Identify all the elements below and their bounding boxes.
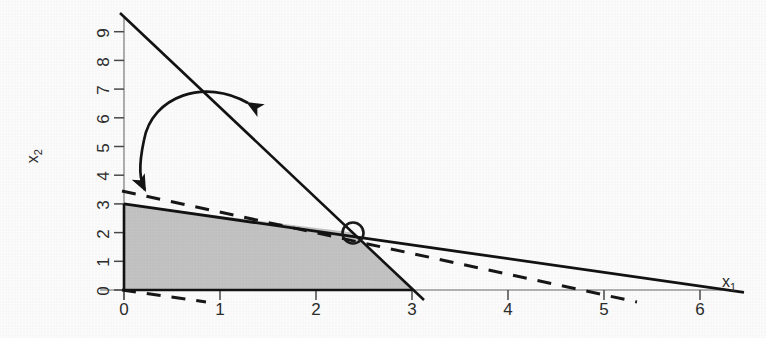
plot-canvas	[0, 0, 766, 338]
ytick-label-7: 7	[94, 81, 114, 99]
rotation-arrow	[140, 92, 248, 190]
ytick-label-1: 1	[94, 253, 114, 271]
ytick-label-5: 5	[94, 139, 114, 157]
ytick-label-2: 2	[94, 225, 114, 243]
xtick-label-6: 6	[695, 300, 704, 320]
ytick-label-9: 9	[94, 24, 114, 42]
lp-feasible-region-figure: 0 1 2 3 4 5 6 0 1 2 3 4 5 6 7 8 9 x1 x2	[0, 0, 766, 338]
xtick-label-3: 3	[407, 300, 416, 320]
y-axis-ticks	[114, 32, 124, 290]
ytick-label-6: 6	[94, 110, 114, 128]
xtick-label-4: 4	[503, 300, 512, 320]
xtick-label-1: 1	[215, 300, 224, 320]
series-lower-dashed-segment	[122, 290, 206, 302]
x-axis-title: x1	[722, 273, 736, 293]
x-axis-ticks	[124, 290, 700, 300]
xtick-label-0: 0	[119, 300, 128, 320]
x-axis-title-sub: 1	[730, 281, 736, 293]
ytick-label-8: 8	[94, 53, 114, 71]
ytick-label-4: 4	[94, 167, 114, 185]
xtick-label-5: 5	[599, 300, 608, 320]
x-axis-title-base: x	[722, 273, 730, 290]
y-axis-title-base: x	[24, 155, 41, 163]
y-axis-title-sub: 2	[32, 149, 44, 155]
ytick-label-0: 0	[94, 282, 114, 300]
xtick-label-2: 2	[311, 300, 320, 320]
ytick-label-3: 3	[94, 196, 114, 214]
y-axis-title: x2	[24, 149, 44, 163]
